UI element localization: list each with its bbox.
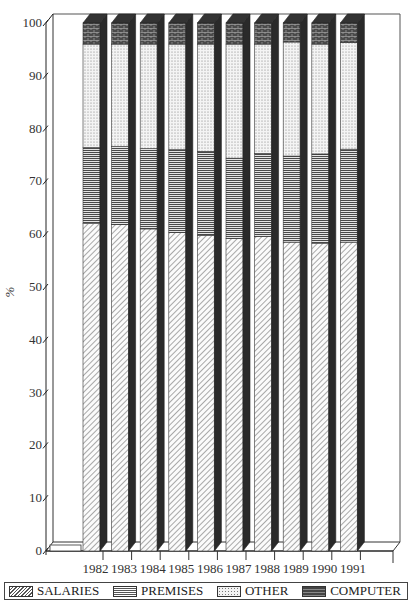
y-tick-label: 80	[29, 121, 42, 136]
legend-item-premises: PREMISES	[113, 583, 203, 599]
segment-computer	[312, 23, 329, 44]
y-tick-label: 90	[29, 68, 42, 83]
x-tick-label: 1991	[340, 561, 366, 576]
legend-label: OTHER	[245, 583, 288, 599]
premises-swatch-icon	[113, 586, 137, 597]
x-tick-label: 1986	[197, 561, 224, 576]
y-tick-label: 20	[29, 437, 42, 452]
segment-computer	[340, 23, 357, 43]
bar-1983	[112, 14, 136, 551]
x-axis: 1982198319841985198619871988198919901991	[83, 551, 366, 576]
segment-other	[312, 44, 329, 154]
y-axis: 0102030405060708090100	[23, 14, 54, 558]
bar-1986	[197, 14, 221, 551]
salaries-swatch-icon	[9, 586, 33, 597]
segment-other	[255, 44, 272, 153]
segment-salaries	[283, 242, 300, 551]
computer-swatch-icon	[302, 586, 326, 597]
y-tick-label: 50	[29, 279, 42, 294]
segment-computer	[255, 23, 272, 44]
stacked-bar-chart: 0102030405060708090100 19821983198419851…	[0, 0, 413, 580]
segment-computer	[83, 23, 100, 44]
bar-1988	[255, 14, 279, 551]
segment-premises	[197, 151, 214, 235]
segment-other	[140, 44, 157, 149]
segment-salaries	[83, 224, 100, 551]
segment-computer	[169, 23, 186, 44]
x-tick-label: 1988	[254, 561, 280, 576]
segment-salaries	[255, 236, 272, 551]
bar-1989	[283, 14, 307, 551]
segment-other	[340, 43, 357, 150]
legend-item-salaries: SALARIES	[9, 583, 99, 599]
bar-1990	[312, 14, 336, 551]
segment-salaries	[197, 235, 214, 551]
y-tick-label: 10	[29, 490, 42, 505]
segment-other	[83, 44, 100, 147]
segment-premises	[112, 147, 129, 225]
y-tick-label: 100	[23, 15, 43, 30]
segment-salaries	[112, 225, 129, 551]
x-tick-label: 1990	[311, 561, 337, 576]
segment-other	[197, 44, 214, 151]
segment-premises	[83, 148, 100, 224]
segment-computer	[283, 23, 300, 42]
segment-other	[226, 44, 243, 158]
bar-1984	[140, 14, 164, 551]
segment-computer	[140, 23, 157, 44]
segment-other	[283, 42, 300, 156]
legend-label: PREMISES	[141, 583, 203, 599]
x-tick-label: 1985	[168, 561, 194, 576]
x-tick-label: 1984	[140, 561, 167, 576]
x-tick-label: 1987	[226, 561, 253, 576]
x-tick-label: 1989	[283, 561, 309, 576]
legend-item-computer: COMPUTER	[302, 583, 401, 599]
segment-salaries	[169, 233, 186, 551]
segment-premises	[340, 149, 357, 242]
segment-premises	[169, 150, 186, 233]
bar-1985	[169, 14, 193, 551]
bar-1987	[226, 14, 250, 551]
y-tick-label: 0	[36, 543, 43, 558]
bar-1991	[340, 14, 364, 551]
segment-premises	[283, 156, 300, 242]
legend-item-other: OTHER	[217, 583, 288, 599]
segment-premises	[312, 154, 329, 243]
segment-salaries	[340, 242, 357, 551]
segment-salaries	[226, 238, 243, 551]
x-tick-label: 1982	[83, 561, 109, 576]
segment-premises	[255, 153, 272, 236]
y-tick-label: 60	[29, 226, 42, 241]
bars	[50, 14, 364, 551]
segment-salaries	[312, 243, 329, 551]
segment-salaries	[140, 229, 157, 551]
segment-other	[169, 44, 186, 150]
y-tick-label: 70	[29, 173, 42, 188]
other-swatch-icon	[217, 586, 241, 597]
legend: SALARIES PREMISES OTHER COMPUTER	[4, 582, 408, 600]
segment-computer	[226, 23, 243, 44]
segment-computer	[112, 23, 129, 44]
y-tick-label: 30	[29, 385, 42, 400]
segment-other	[112, 44, 129, 146]
bar-1982	[83, 14, 107, 551]
segment-premises	[226, 158, 243, 238]
segment-premises	[140, 149, 157, 229]
x-tick-label: 1983	[111, 561, 137, 576]
legend-label: COMPUTER	[330, 583, 401, 599]
legend-label: SALARIES	[37, 583, 99, 599]
y-axis-label: %	[2, 286, 17, 297]
y-tick-label: 40	[29, 332, 42, 347]
segment-computer	[197, 23, 214, 44]
